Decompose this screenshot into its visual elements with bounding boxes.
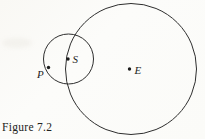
point-dot-E [128, 67, 131, 70]
figure-caption: Figure 7.2 [2, 121, 52, 133]
point-label-S: S [73, 53, 79, 65]
point-label-P: P [36, 68, 44, 80]
circles-diagram: P S E [0, 0, 205, 139]
point-label-E: E [134, 64, 142, 76]
point-dot-P [47, 66, 50, 69]
figure-canvas: P S E Figure 7.2 [0, 0, 205, 139]
point-dot-S [66, 57, 69, 60]
